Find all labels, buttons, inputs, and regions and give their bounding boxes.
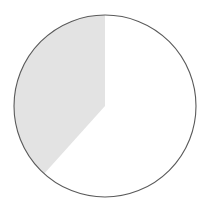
pie-chart-figure [0, 0, 215, 211]
pie-chart-svg [0, 0, 215, 211]
